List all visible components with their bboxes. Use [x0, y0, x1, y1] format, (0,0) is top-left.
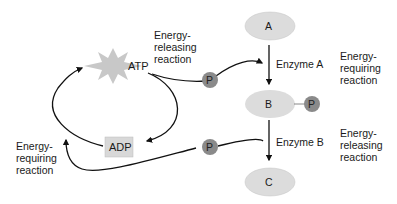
molecule-a-label: A: [265, 20, 272, 32]
phosphate-transfer-arrow-2: [216, 61, 262, 76]
phosphate-return-arrow: [218, 139, 263, 146]
phosphate-label-atp: P: [206, 74, 213, 86]
cycle-arrow-adp-to-atp: [53, 68, 103, 146]
annotation-a-to-b: Energy- requiring reaction: [340, 50, 381, 86]
adp-label: ADP: [109, 141, 132, 153]
annotation-adp-regen: Energy- requiring reaction: [16, 140, 57, 176]
molecule-c-label: C: [265, 176, 273, 188]
phosphate-label-b: P: [308, 98, 315, 110]
atp-label: ATP: [128, 60, 149, 72]
annotation-atp-release: Energy- releasing reaction: [154, 29, 197, 65]
cycle-arrow-atp-to-adp: [147, 73, 178, 141]
annotation-b-to-c: Energy- releasing reaction: [340, 127, 383, 163]
enzyme-b-label: Enzyme B: [276, 136, 324, 148]
diagram-canvas: [0, 0, 397, 204]
enzyme-a-label: Enzyme A: [276, 58, 323, 70]
phosphate-label-adp: P: [206, 141, 213, 153]
molecule-b-label: B: [265, 98, 272, 110]
